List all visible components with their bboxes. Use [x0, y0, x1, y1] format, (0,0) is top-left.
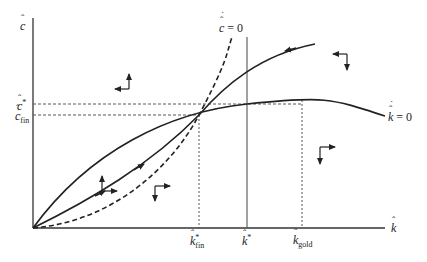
direction-arrows — [102, 54, 347, 201]
axes — [33, 18, 385, 228]
x-axis-label: k — [391, 222, 396, 234]
phase-diagram — [0, 0, 427, 262]
direction-arrow-lower-right-icon — [320, 147, 335, 164]
saddle-path-lower — [33, 115, 199, 228]
x-tick-k-gold: kgold — [293, 234, 313, 249]
arrow-lower-2-icon — [134, 164, 144, 170]
direction-arrow-upper-left-icon — [115, 74, 129, 89]
x-tick-k-fin-star: k*fin — [190, 234, 204, 250]
direction-arrow-lower-middle-icon — [155, 186, 170, 201]
c-dot-zero-label: c = 0 — [219, 22, 243, 34]
y-tick-c-fin: cfin — [15, 110, 29, 125]
y-axis-label: c — [20, 20, 25, 32]
k-dot-zero-label: k = 0 — [388, 111, 412, 123]
c-dot-zero-locus — [33, 37, 232, 228]
x-tick-k-star: k* — [242, 234, 251, 247]
direction-arrow-upper-right-icon — [333, 54, 347, 70]
k-dot-zero-locus — [33, 100, 385, 228]
reference-lines — [33, 37, 303, 228]
